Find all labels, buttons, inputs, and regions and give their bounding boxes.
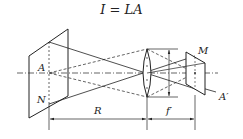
source-plane [29, 29, 68, 118]
optics-diagram: A N M A′ R f′ [0, 0, 243, 139]
label-A-prime: A′ [218, 91, 229, 102]
ray-dashed-top [49, 49, 147, 73]
label-A: A [37, 62, 45, 73]
label-R: R [93, 105, 102, 116]
label-M: M [197, 45, 209, 56]
label-f-prime: f′ [165, 105, 173, 116]
image-center-point [194, 72, 196, 74]
label-N: N [36, 94, 47, 105]
